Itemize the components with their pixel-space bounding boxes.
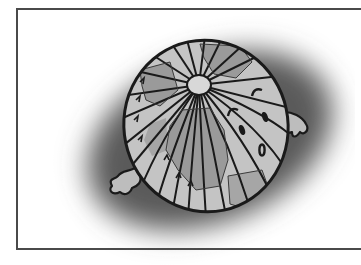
north-pole — [187, 75, 211, 95]
